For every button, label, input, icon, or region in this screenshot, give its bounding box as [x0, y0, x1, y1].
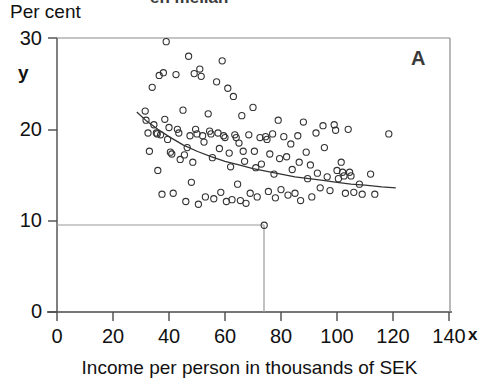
data-point — [169, 151, 175, 157]
data-point — [190, 159, 196, 165]
data-point — [254, 194, 260, 200]
data-point — [236, 140, 242, 146]
data-point — [368, 171, 374, 177]
data-point — [314, 170, 320, 176]
data-point — [327, 187, 333, 193]
data-point — [235, 181, 241, 187]
data-point — [155, 167, 161, 173]
data-point — [174, 126, 180, 132]
data-point — [275, 117, 281, 123]
data-point — [307, 162, 313, 168]
data-point — [200, 133, 206, 139]
data-point — [142, 108, 148, 114]
data-point — [298, 197, 304, 203]
data-point — [309, 194, 315, 200]
data-point — [188, 179, 194, 185]
data-point — [347, 169, 353, 175]
y-axis-ticks — [48, 38, 57, 312]
data-point — [258, 161, 264, 167]
data-point — [265, 188, 271, 194]
data-point — [270, 131, 276, 137]
data-point — [170, 190, 176, 196]
data-point — [162, 116, 168, 122]
data-point — [145, 130, 151, 136]
data-point — [163, 39, 169, 45]
data-point — [277, 155, 283, 161]
data-point — [386, 131, 392, 137]
data-point — [321, 145, 327, 151]
axis-frame — [47, 38, 452, 312]
data-point — [226, 150, 232, 156]
data-point — [198, 73, 204, 79]
data-point — [340, 169, 346, 175]
data-point — [229, 197, 235, 203]
data-point — [289, 166, 295, 172]
data-point — [166, 124, 172, 130]
data-point — [149, 84, 155, 90]
data-point — [214, 79, 220, 85]
data-point — [219, 58, 225, 64]
data-point — [341, 173, 347, 179]
data-point — [251, 148, 257, 154]
data-point — [146, 148, 152, 154]
data-point — [201, 139, 207, 145]
data-point — [296, 159, 302, 165]
data-point — [186, 53, 192, 59]
data-point — [240, 148, 246, 154]
data-point — [195, 201, 201, 207]
data-point — [216, 145, 222, 151]
data-point — [272, 195, 278, 201]
reference-lines — [57, 225, 264, 312]
data-point — [173, 71, 179, 77]
data-point — [197, 66, 203, 72]
data-point — [202, 194, 208, 200]
data-point — [281, 134, 287, 140]
data-point — [218, 189, 224, 195]
data-point — [242, 158, 248, 164]
data-point — [246, 132, 252, 138]
data-point — [225, 85, 231, 91]
data-point — [288, 141, 294, 147]
data-point — [243, 200, 249, 206]
data-point — [348, 173, 354, 179]
data-point — [285, 192, 291, 198]
data-point — [300, 119, 306, 125]
data-point — [230, 93, 236, 99]
data-point — [292, 190, 298, 196]
data-point — [191, 71, 197, 77]
data-point — [351, 189, 357, 195]
x-axis-ticks — [57, 312, 449, 321]
data-point — [359, 191, 365, 197]
data-point — [324, 174, 330, 180]
data-point — [247, 190, 253, 196]
data-point — [284, 154, 290, 160]
plot-canvas — [0, 0, 499, 387]
figure-panel-a: en mellan Per cent y x A Income per pers… — [0, 0, 499, 387]
data-point — [211, 196, 217, 202]
data-point — [295, 133, 301, 139]
data-point — [239, 113, 245, 119]
data-point — [267, 151, 273, 157]
data-point — [250, 104, 256, 110]
data-point — [278, 187, 284, 193]
scatter-points-group — [142, 39, 392, 229]
data-point — [317, 185, 323, 191]
data-point — [222, 134, 228, 140]
data-point — [187, 133, 193, 139]
data-point — [159, 191, 165, 197]
data-point — [320, 123, 326, 129]
data-point — [303, 149, 309, 155]
data-point — [345, 126, 351, 132]
data-point — [205, 111, 211, 117]
data-point — [180, 107, 186, 113]
data-point — [313, 130, 319, 136]
data-point — [372, 191, 378, 197]
data-point — [183, 198, 189, 204]
data-point — [181, 152, 187, 158]
fitted-curve — [137, 112, 396, 188]
data-point — [338, 159, 344, 165]
data-point — [228, 164, 234, 170]
data-point — [176, 130, 182, 136]
data-point — [342, 190, 348, 196]
